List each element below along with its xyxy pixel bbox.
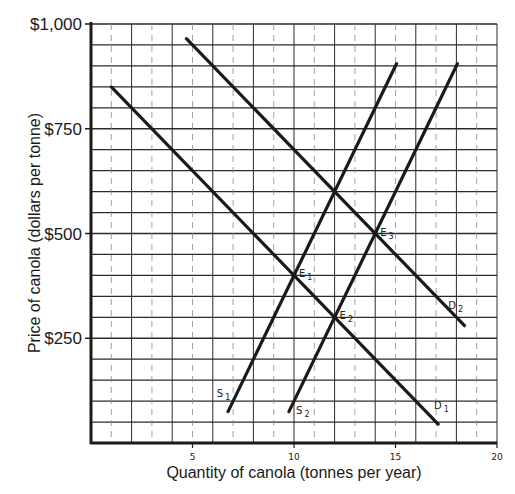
- equilibrium-point-e1: [292, 273, 297, 278]
- x-tick-label: 20: [491, 452, 503, 462]
- x-axis-title: Quantity of canola (tonnes per year): [166, 464, 421, 481]
- curves: [111, 39, 464, 424]
- y-axis-title: Price of canola (dollars per tonne): [26, 113, 43, 353]
- x-tick-label: 15: [390, 452, 401, 462]
- grid-lines: [91, 24, 497, 443]
- x-tick-label: 10: [288, 452, 300, 462]
- equilibrium-point-e3: [373, 231, 378, 236]
- label-s2: S2: [296, 405, 309, 419]
- demand-curve-d2: [186, 39, 464, 326]
- demand-curve-d1: [111, 87, 438, 424]
- y-tick-label: $1,000: [30, 15, 82, 34]
- y-tick-label: $250: [44, 329, 82, 348]
- equilibrium-point-e2: [332, 315, 337, 320]
- label-s1: S1: [217, 388, 230, 402]
- x-tick-label: 5: [190, 452, 196, 462]
- y-tick-label: $750: [44, 120, 82, 139]
- y-tick-label: $500: [44, 225, 82, 244]
- supply-demand-chart: $250$500$750$1,000 5101520 D1D2S1S2E1E2E…: [0, 0, 515, 494]
- x-tick-labels: 5101520: [190, 443, 503, 462]
